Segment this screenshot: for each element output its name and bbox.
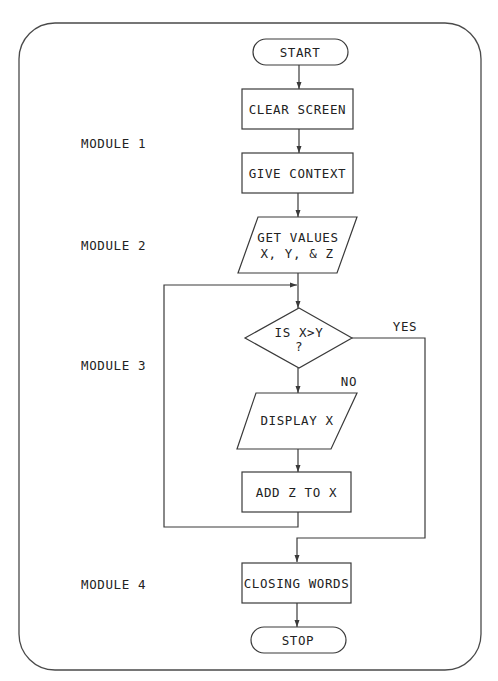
decision-diamond: IS X>Y ? xyxy=(245,308,352,368)
clear-screen-process: CLEAR SCREEN xyxy=(242,89,353,129)
start-label: START xyxy=(280,45,321,60)
add-z-process: ADD Z TO X xyxy=(242,472,351,512)
give-context-label: GIVE CONTEXT xyxy=(249,166,347,181)
clear-screen-label: CLEAR SCREEN xyxy=(249,102,347,117)
module-3-label: MODULE 3 xyxy=(81,358,146,373)
give-context-process: GIVE CONTEXT xyxy=(242,153,353,193)
display-x-io: DISPLAY X xyxy=(237,393,357,449)
closing-words-process: CLOSING WORDS xyxy=(242,563,351,603)
add-z-label: ADD Z TO X xyxy=(256,485,337,500)
yes-label: YES xyxy=(393,319,417,334)
decision-line2: ? xyxy=(295,339,303,354)
get-values-io: GET VALUES X, Y, & Z xyxy=(238,217,357,273)
get-values-line1: GET VALUES xyxy=(257,230,338,245)
yes-branch-line xyxy=(297,338,425,562)
module-1-label: MODULE 1 xyxy=(81,136,146,151)
display-x-label: DISPLAY X xyxy=(260,413,333,428)
stop-label: STOP xyxy=(282,633,315,648)
get-values-line2: X, Y, & Z xyxy=(260,246,333,261)
flowchart-diagram: MODULE 1 MODULE 2 MODULE 3 MODULE 4 STAR… xyxy=(0,0,498,681)
closing-words-label: CLOSING WORDS xyxy=(244,576,350,591)
module-4-label: MODULE 4 xyxy=(81,577,146,592)
stop-terminator: STOP xyxy=(251,627,346,653)
no-label: NO xyxy=(341,374,357,389)
module-2-label: MODULE 2 xyxy=(81,238,146,253)
decision-line1: IS X>Y xyxy=(275,325,324,340)
start-terminator: START xyxy=(253,39,348,65)
